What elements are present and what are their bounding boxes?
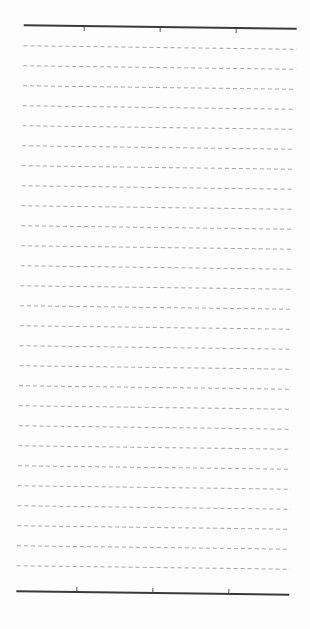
dashed-writing-line xyxy=(22,165,295,170)
dashed-writing-line xyxy=(21,245,294,250)
ruled-page xyxy=(0,0,310,629)
top-rule-tick xyxy=(160,28,161,32)
dashed-writing-line xyxy=(18,465,291,470)
ruled-sheet xyxy=(0,0,310,629)
dashed-writing-line xyxy=(20,325,293,330)
dashed-writing-line xyxy=(22,145,295,150)
dashed-writing-line xyxy=(23,45,296,50)
dashed-writing-line xyxy=(18,425,291,430)
dashed-writing-line xyxy=(23,85,296,90)
bottom-rule-tick xyxy=(228,589,229,593)
top-rule-tick xyxy=(84,27,85,31)
dashed-writing-line xyxy=(21,225,294,230)
dashed-writing-line xyxy=(18,485,291,490)
dashed-writing-line xyxy=(19,405,292,410)
bottom-rule-tick xyxy=(152,588,153,592)
dashed-writing-line xyxy=(20,285,293,290)
dashed-writing-line xyxy=(19,385,292,390)
dashed-writing-line xyxy=(22,185,295,190)
dashed-writing-line xyxy=(17,565,290,570)
dashed-writing-line xyxy=(20,305,293,310)
dashed-writing-line xyxy=(23,65,296,70)
dashed-writing-line xyxy=(20,345,293,350)
dashed-lines xyxy=(4,0,310,2)
dashed-writing-line xyxy=(23,105,296,110)
dashed-writing-line xyxy=(17,525,290,530)
bottom-rule-tick xyxy=(76,587,77,591)
dashed-writing-line xyxy=(22,125,295,130)
dashed-writing-line xyxy=(21,205,294,210)
rule-ticks xyxy=(4,0,310,2)
dashed-writing-line xyxy=(21,265,294,270)
dashed-writing-line xyxy=(18,445,291,450)
dashed-writing-line xyxy=(17,505,290,510)
dashed-writing-line xyxy=(19,365,292,370)
top-rule-tick xyxy=(236,29,237,33)
dashed-writing-line xyxy=(17,545,290,550)
